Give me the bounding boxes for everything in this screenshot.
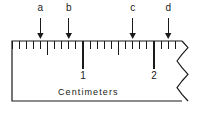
pointer-arrow-d <box>165 18 171 39</box>
pointer-arrow-b <box>66 18 72 39</box>
pointer-label-a: a <box>33 3 47 13</box>
ruler-torn-edge <box>177 41 188 101</box>
pointer-arrow-a <box>37 18 43 39</box>
pointer-label-d: d <box>161 3 175 13</box>
arrow-head <box>37 33 43 39</box>
tick-number-2: 2 <box>147 71 161 81</box>
arrow-head <box>66 33 72 39</box>
pointer-label-b: b <box>62 3 76 13</box>
tick-number-1: 1 <box>76 71 90 81</box>
arrow-head <box>165 33 171 39</box>
pointer-arrows <box>37 18 171 39</box>
ruler-diagram: abcd 12 Centimeters <box>0 0 207 114</box>
arrow-head <box>130 33 136 39</box>
ruler-caption: Centimeters <box>58 88 119 97</box>
pointer-arrow-c <box>130 18 136 39</box>
pointer-label-c: c <box>126 3 140 13</box>
ruler-tick-marks <box>12 41 175 69</box>
